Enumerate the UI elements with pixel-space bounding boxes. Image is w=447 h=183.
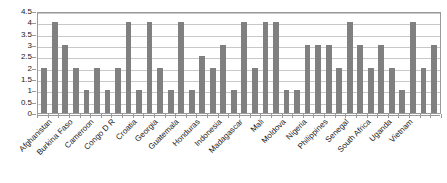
bar-slot (260, 13, 271, 113)
bar (241, 22, 247, 113)
bar (357, 45, 363, 113)
x-tick-mark (441, 114, 442, 118)
bar (263, 22, 269, 113)
y-axis: 4.543.532.521.510.50 (0, 12, 35, 114)
bar (231, 90, 237, 113)
bar-slot (186, 13, 197, 113)
bar (368, 68, 374, 113)
bar-slot (418, 13, 429, 113)
bar-slot (165, 13, 176, 113)
bar (378, 45, 384, 113)
bar-slot (71, 13, 82, 113)
bar-slot (60, 13, 71, 113)
bar-slot (323, 13, 334, 113)
bar-slot (376, 13, 387, 113)
bar (305, 45, 311, 113)
bar-slot (208, 13, 219, 113)
bar-slot (155, 13, 166, 113)
bar (115, 68, 121, 113)
bar (294, 90, 300, 113)
bar (326, 45, 332, 113)
bar-slot (102, 13, 113, 113)
bar (136, 90, 142, 113)
bar (421, 68, 427, 113)
bar-slot (50, 13, 61, 113)
bar-slot (239, 13, 250, 113)
x-axis-labels: AfghanistanBurkina FasoCameroonCongo D R… (37, 118, 441, 182)
bar (178, 22, 184, 113)
bar (84, 90, 90, 113)
bar-slot (197, 13, 208, 113)
y-tick-mark (32, 80, 36, 81)
bar-slot (176, 13, 187, 113)
bar-slot (429, 13, 440, 113)
bar-series (38, 13, 440, 113)
bar-slot (218, 13, 229, 113)
bar (431, 45, 437, 113)
bar (126, 22, 132, 113)
bar-slot (113, 13, 124, 113)
plot-area (37, 12, 441, 114)
bar-slot (92, 13, 103, 113)
bar (410, 22, 416, 113)
bar (62, 45, 68, 113)
bar-slot (302, 13, 313, 113)
y-tick-mark (32, 12, 36, 13)
bar (168, 90, 174, 113)
bar (284, 90, 290, 113)
bar-slot (144, 13, 155, 113)
bar (273, 22, 279, 113)
bar-slot (344, 13, 355, 113)
y-tick-mark (32, 46, 36, 47)
bar-slot (229, 13, 240, 113)
bar (147, 22, 153, 113)
y-tick-label: 3.5 (21, 31, 32, 39)
bar-slot (281, 13, 292, 113)
bar (52, 22, 58, 113)
bar-slot (334, 13, 345, 113)
bar-slot (134, 13, 145, 113)
bar (73, 68, 79, 113)
bar (199, 56, 205, 113)
x-axis-label: Mali (250, 118, 266, 134)
bar-slot (39, 13, 50, 113)
bar-slot (387, 13, 398, 113)
bar-slot (123, 13, 134, 113)
bar (189, 90, 195, 113)
y-tick-mark (32, 103, 36, 104)
y-tick-mark (32, 57, 36, 58)
bar (94, 68, 100, 113)
bar (315, 45, 321, 113)
bar (399, 90, 405, 113)
bar (389, 68, 395, 113)
y-tick-mark (32, 114, 36, 115)
bar (336, 68, 342, 113)
bar-slot (355, 13, 366, 113)
y-tick-label: 1.5 (21, 76, 32, 84)
bar-slot (250, 13, 261, 113)
y-tick-label: 2.5 (21, 53, 32, 61)
bar-chart: 4.543.532.521.510.50 AfghanistanBurkina … (0, 0, 447, 183)
y-tick-label: 4.5 (21, 8, 32, 16)
y-tick-mark (32, 91, 36, 92)
bar-slot (81, 13, 92, 113)
bar (157, 68, 163, 113)
bar-slot (313, 13, 324, 113)
bar (41, 68, 47, 113)
y-tick-mark (32, 69, 36, 70)
bar (347, 22, 353, 113)
bar (220, 45, 226, 113)
y-tick-mark (32, 23, 36, 24)
bar-slot (408, 13, 419, 113)
bar-slot (292, 13, 303, 113)
bar (210, 68, 216, 113)
bar (105, 90, 111, 113)
bar-slot (397, 13, 408, 113)
bar-slot (365, 13, 376, 113)
bar (252, 68, 258, 113)
y-tick-mark (32, 35, 36, 36)
y-tick-label: 0.5 (21, 99, 32, 107)
bar-slot (271, 13, 282, 113)
